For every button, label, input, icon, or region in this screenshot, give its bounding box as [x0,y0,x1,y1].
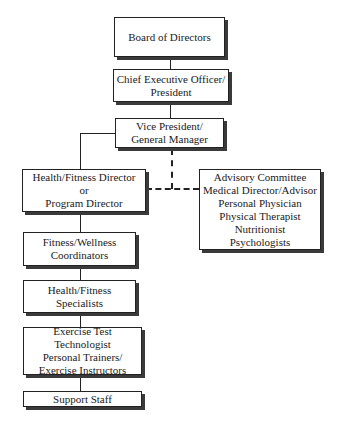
node-label: Physical Therapist [219,210,300,223]
dashed-connector-vp-advisory-v [171,149,173,189]
connector-vp-director-v [80,133,81,169]
node-label: Advisory Committee [214,171,307,184]
node-label: Personal Physician [218,197,301,210]
connector-vp-director-h [80,133,115,134]
node-label: Specialists [56,297,103,310]
node-label: Health/Fitness Director [33,171,136,184]
node-label: Psychologists [230,236,291,249]
connector-exercise-support [80,375,81,391]
node-ceo: Chief Executive Officer/ President [113,69,229,102]
node-label: Exercise Test Technologist [24,325,141,351]
node-fitness-wellness-coordinators: Fitness/Wellness Coordinators [23,232,136,266]
node-health-fitness-specialists: Health/Fitness Specialists [23,280,136,313]
connector-board-ceo [170,57,171,69]
node-label: General Manager [131,133,208,146]
node-label: Chief Executive Officer/ [117,73,226,86]
node-label: Vice President/ [136,120,203,133]
node-label: Coordinators [51,249,108,262]
node-label: Fitness/Wellness [43,236,117,249]
node-health-fitness-director: Health/Fitness Director or Program Direc… [22,169,146,212]
connector-coordinators-specialists [80,266,81,280]
connector-director-coordinators [80,212,81,232]
node-label: Personal Trainers/ [43,351,123,364]
node-label: Support Staff [53,393,112,406]
node-label: Medical Director/Advisor [203,184,317,197]
node-exercise-staff: Exercise Test Technologist Personal Trai… [23,327,142,375]
node-advisory-committee: Advisory Committee Medical Director/Advi… [199,169,321,250]
node-label: President [151,86,192,99]
node-label: Exercise Instructors [39,364,127,377]
node-label: Nutritionist [235,223,286,236]
connector-ceo-vp [170,102,171,118]
node-support-staff: Support Staff [23,391,142,407]
node-label: Health/Fitness [48,284,112,297]
dashed-connector-director-advisory [146,188,199,190]
node-label: Board of Directors [128,31,210,44]
node-vice-president: Vice President/ General Manager [115,118,224,148]
node-label: or [79,184,88,197]
node-label: Program Director [45,197,122,210]
node-board-of-directors: Board of Directors [114,17,225,57]
